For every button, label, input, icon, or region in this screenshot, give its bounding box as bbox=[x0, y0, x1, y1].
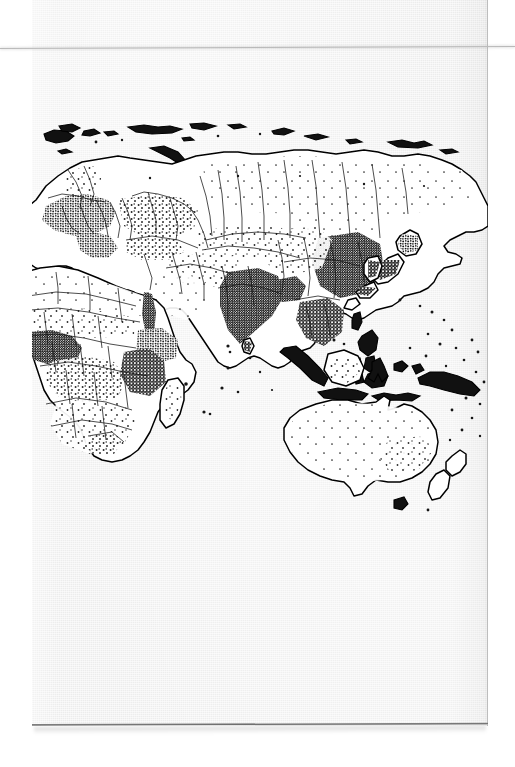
taiwan bbox=[352, 312, 362, 330]
tasmania bbox=[394, 497, 408, 510]
map-svg bbox=[32, 0, 488, 726]
world-population-dot-map bbox=[32, 0, 488, 726]
arctic-islands bbox=[44, 123, 458, 154]
page-bottom-shadow bbox=[34, 726, 486, 734]
scan-canvas bbox=[0, 0, 515, 767]
